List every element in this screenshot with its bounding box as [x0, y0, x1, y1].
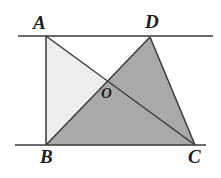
- vertex-label-c: C: [188, 147, 201, 166]
- vertex-label-a: A: [33, 13, 46, 32]
- vertex-label-d: D: [145, 12, 159, 31]
- geometry-figure: A D B C O: [0, 0, 221, 178]
- vertex-label-b: B: [40, 147, 53, 166]
- vertex-label-o: O: [101, 86, 112, 101]
